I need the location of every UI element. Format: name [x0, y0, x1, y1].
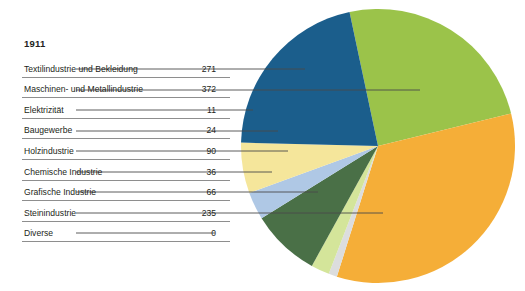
table-row: Holzindustrie90: [22, 139, 230, 160]
table-row-label: Steinindustrie: [24, 208, 76, 218]
table-row-label: Maschinen- und Metallindustrie: [24, 84, 143, 94]
chart-figure: 1911 Textilindustrie und Bekleidung271Ma…: [0, 0, 525, 291]
table-row: Textilindustrie und Bekleidung271: [22, 57, 230, 78]
table-row: Baugewerbe24: [22, 119, 230, 140]
data-table: 1911 Textilindustrie und Bekleidung271Ma…: [22, 38, 230, 242]
year-label: 1911: [24, 38, 230, 50]
table-row: Elektrizität11: [22, 98, 230, 119]
table-row-value: 90: [206, 146, 216, 156]
table-row: Maschinen- und Metallindustrie372: [22, 78, 230, 99]
table-row: Chemische Industrie36: [22, 160, 230, 181]
table-row-label: Grafische Industrie: [24, 187, 96, 197]
table-row-label: Textilindustrie und Bekleidung: [24, 64, 138, 74]
table-row-value: 372: [202, 84, 216, 94]
table-row-value: 235: [202, 208, 216, 218]
table-row: Diverse0: [22, 222, 230, 243]
table-row-label: Chemische Industrie: [24, 167, 102, 177]
table-body: Textilindustrie und Bekleidung271Maschin…: [22, 57, 230, 242]
table-row-label: Elektrizität: [24, 105, 64, 115]
table-row-label: Baugewerbe: [24, 125, 72, 135]
table-row-value: 66: [206, 187, 216, 197]
table-row-value: 0: [211, 228, 216, 238]
table-row: Grafische Industrie66: [22, 181, 230, 202]
table-row-label: Diverse: [24, 228, 53, 238]
table-row-value: 11: [207, 105, 216, 115]
table-row-value: 271: [202, 64, 216, 74]
pie-slice-group: [241, 9, 515, 283]
table-row-value: 24: [206, 125, 216, 135]
table-row: Steinindustrie235: [22, 201, 230, 222]
table-row-label: Holzindustrie: [24, 146, 74, 156]
table-row-value: 36: [206, 167, 216, 177]
